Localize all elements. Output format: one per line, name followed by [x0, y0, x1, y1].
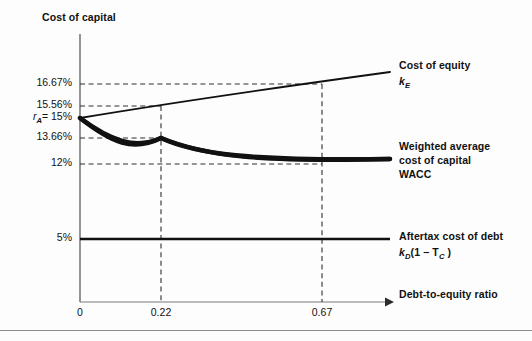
x-axis-title: Debt-to-equity ratio	[399, 289, 498, 301]
y-axis-title: Cost of capital	[42, 12, 116, 24]
y-tick-label-16-67: 16.67%	[0, 77, 72, 89]
x-tick-label-0: 0	[60, 307, 100, 319]
bottom-divider	[0, 330, 532, 331]
debt-symbol-tail: (1 − T	[411, 246, 439, 258]
series-label-wacc-line3: WACC	[399, 169, 431, 181]
figure-canvas: Cost of capital Debt-to-equity ratio 16.…	[0, 0, 532, 341]
y-tick-label-5: 5%	[0, 232, 72, 244]
series-cost-of-equity-curve	[80, 72, 390, 118]
y-tick-label-12: 12%	[0, 157, 72, 169]
equity-symbol-subscript: E	[405, 81, 410, 90]
series-symbol-cost-of-equity: kE	[399, 76, 410, 91]
x-tick-label-0-67: 0.67	[302, 307, 342, 319]
series-symbol-aftertax-cost-of-debt: kD(1 − TC )	[399, 247, 451, 262]
series-label-aftertax-cost-of-debt: Aftertax cost of debt	[399, 231, 503, 243]
x-tick-label-0-22: 0.22	[141, 307, 181, 319]
series-label-wacc-line2: cost of capital	[399, 155, 471, 167]
y-tick-label-15: rA= 15%	[0, 111, 72, 126]
debt-symbol-tail-end: )	[444, 246, 451, 258]
y-tick-label-13-66: 13.66%	[0, 131, 72, 143]
series-label-cost-of-equity: Cost of equity	[399, 60, 470, 72]
series-label-wacc-line1: Weighted average	[399, 141, 490, 153]
y-tick-15-value: = 15%	[42, 110, 72, 122]
x-axis-arrow-icon	[385, 298, 394, 307]
series-wacc-curve-smooth	[80, 118, 390, 159]
y-tick-label-15-56: 15.56%	[0, 99, 72, 111]
